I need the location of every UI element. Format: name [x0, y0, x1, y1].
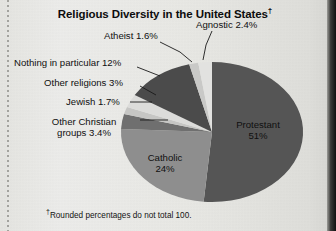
figure-page: Religious Diversity in the United States… — [0, 0, 336, 231]
pie-label-nothing-in-particular: Nothing in particular 12% — [14, 57, 121, 68]
pie-label-jewish: Jewish 1.7% — [66, 96, 120, 107]
pie-label-catholic-name: Catholic — [131, 152, 199, 163]
pie-label-catholic: Catholic 24% — [131, 152, 199, 175]
pie-label-other-christian-groups-line2: groups 3.4% — [28, 127, 140, 138]
figure-footnote: †Rounded percentages do not total 100. — [46, 208, 191, 220]
pie-label-other-christian-groups-line1: Other Christian — [28, 116, 140, 127]
pie-label-protestant-name: Protestant — [222, 119, 294, 130]
page-gutter-shadow — [327, 0, 336, 231]
leader-line-atheist — [160, 42, 192, 62]
pie-label-protestant-value: 51% — [222, 130, 294, 141]
pie-label-other-religions: Other religions 3% — [44, 77, 123, 88]
pie-label-catholic-value: 24% — [131, 163, 199, 174]
pie-label-agnostic: Agnostic 2.4% — [196, 19, 257, 30]
footnote-text: Rounded percentages do not total 100. — [50, 211, 192, 220]
leader-line-agnostic — [203, 31, 212, 60]
pie-label-atheist: Atheist 1.6% — [104, 30, 158, 41]
pie-chart: Nothing in particular 12% Other religion… — [0, 0, 336, 231]
pie-label-other-christian-groups: Other Christian groups 3.4% — [28, 116, 140, 139]
leader-line-nothing-in-particular — [137, 67, 160, 76]
pie-label-protestant: Protestant 51% — [222, 119, 294, 142]
